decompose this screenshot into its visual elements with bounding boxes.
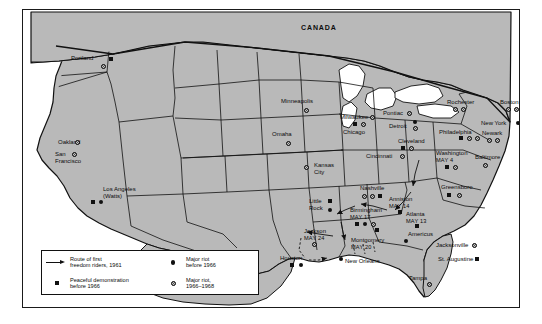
major-riot-1966-1968-marker	[400, 154, 405, 159]
city-label-baltimore: Baltimore	[475, 154, 500, 161]
major-riot-1966-1968-marker	[506, 107, 511, 112]
city-name: Minneapolis	[281, 98, 313, 105]
city-name: Tampa	[409, 275, 427, 282]
city-name: Montgomery	[351, 237, 384, 244]
major-riot-1966-1968-marker	[475, 136, 480, 141]
city-date: MAY 17	[350, 214, 382, 221]
legend-label-peaceful-demonstration: Peaceful demonstration before 1966	[70, 277, 129, 290]
major-riot-1966-1968-marker	[409, 146, 414, 151]
legend-item-freedom-riders: Route of first freedom riders, 1961	[44, 256, 152, 269]
city-name: Cincinnati	[366, 153, 392, 160]
city-name: Nashville	[360, 185, 384, 192]
city-label-detroit: Detroit	[389, 123, 407, 130]
city-label-san-francisco: San Francisco	[55, 151, 81, 164]
map-legend: Route of first freedom riders, 1961 Peac…	[41, 250, 259, 295]
legend-item-major-riot-1966-1968: Major riot, 1966–1968	[160, 277, 256, 290]
major-riot-1966-1968-marker	[457, 193, 462, 198]
map-figure-frame: CANADA MEXICO PortlandOaklandSan Francis…	[22, 9, 520, 308]
city-date: MAY 20	[351, 244, 384, 251]
city-label-houston: Houston	[280, 255, 302, 262]
city-label-kansas-city: Kansas City	[314, 162, 334, 175]
city-label-rochester: Rochester	[447, 99, 474, 106]
city-label-boston: Boston	[500, 99, 519, 106]
city-label-anniston: AnnistonMAY 14	[389, 196, 412, 209]
city-name: Kansas City	[314, 162, 334, 175]
legend-item-peaceful-demonstration: Peaceful demonstration before 1966	[44, 277, 156, 290]
city-name: Omaha	[272, 131, 292, 138]
square-icon	[44, 281, 70, 285]
major-riot-1966-1968-marker	[467, 136, 472, 141]
city-name: St. Augustine	[438, 256, 473, 263]
major-riot-1966-1968-marker	[427, 282, 432, 287]
city-label-jacksonville: Jacksonville	[436, 242, 468, 249]
peaceful-demonstration-marker	[459, 136, 463, 140]
city-label-milwaukee: Milwaukee	[340, 114, 368, 121]
major-riot-1966-1968-marker	[304, 165, 309, 170]
city-name: Greensboro	[441, 184, 473, 191]
city-label-birmingham: BirminghamMAY 17	[350, 207, 382, 220]
city-label-greensboro: Greensboro	[441, 184, 473, 191]
city-name: Jacksonville	[436, 242, 468, 249]
legend-label-freedom-riders: Route of first freedom riders, 1961	[70, 256, 122, 269]
legend-label-major-riot-before-1966: Major riot before 1966	[186, 256, 216, 269]
city-label-omaha: Omaha	[272, 131, 292, 138]
city-label-tampa: Tampa	[409, 275, 427, 282]
city-name: Detroit	[389, 123, 407, 130]
ring-icon	[160, 281, 186, 286]
city-label-pontiac: Pontiac	[383, 110, 403, 117]
major-riot-1966-1968-marker	[514, 107, 519, 112]
peaceful-demonstration-marker	[415, 224, 419, 228]
city-label-atlanta: AtlantaMAY 13	[406, 211, 427, 224]
major-riot-1966-1968-marker	[371, 222, 376, 227]
city-name: Cleveland	[398, 138, 425, 145]
major-riot-1966-1968-marker	[304, 108, 309, 113]
city-name: Houston	[280, 255, 302, 262]
major-riot-1966-1968-marker	[472, 243, 477, 248]
city-date: MAY 14	[389, 203, 412, 210]
major-riot-1966-1968-marker	[413, 126, 418, 131]
city-name: Americus	[408, 231, 433, 238]
city-name: Atlanta	[406, 211, 427, 218]
city-name: Washington	[436, 150, 467, 157]
legend-label-major-riot-1966-1968: Major riot, 1966–1968	[186, 277, 214, 290]
city-label-los-angeles: Los Angeles (Watts)	[103, 186, 136, 199]
major-riot-1966-1968-marker	[101, 64, 106, 69]
route-arrow-icon	[44, 259, 70, 265]
city-label-cleveland: Cleveland	[398, 138, 425, 145]
city-label-jackson: JacksonMAY 24	[304, 228, 326, 241]
city-date: MAY 4	[436, 157, 467, 164]
peaceful-demonstration-marker	[475, 257, 479, 261]
city-name: Little Rock	[309, 198, 323, 211]
city-name: Anniston	[389, 196, 412, 203]
legend-item-major-riot-before-1966: Major riot before 1966	[160, 256, 256, 269]
peaceful-demonstration-marker	[355, 222, 359, 226]
city-label-new-orleans: New Orleans	[345, 258, 380, 265]
city-label-st-augustine: St. Augustine	[438, 256, 473, 263]
city-name: New Orleans	[345, 258, 380, 265]
city-name: Jackson	[304, 228, 326, 235]
city-name: Portland	[71, 55, 93, 62]
peaceful-demonstration-marker	[401, 146, 405, 150]
major-riot-1966-1968-marker	[286, 141, 291, 146]
city-name: Birmingham	[350, 207, 382, 214]
dot-icon	[160, 260, 186, 264]
city-name: Baltimore	[475, 154, 500, 161]
peaceful-demonstration-marker	[353, 122, 357, 126]
major-riot-1966-1968-marker	[483, 163, 488, 168]
major-riot-1966-1968-marker	[370, 194, 375, 199]
city-label-minneapolis: Minneapolis	[281, 98, 313, 105]
screenshot-root: CANADA MEXICO PortlandOaklandSan Francis…	[0, 0, 542, 324]
major-riot-1966-1968-marker	[75, 140, 80, 145]
city-name: Los Angeles (Watts)	[103, 186, 136, 199]
peaceful-demonstration-marker	[328, 199, 332, 203]
city-date: MAY 24	[304, 235, 326, 242]
major-riot-1966-1968-marker	[495, 138, 500, 143]
city-label-new-york: New York	[481, 120, 506, 127]
major-riot-1966-1968-marker	[461, 107, 466, 112]
city-label-philadelphia: Philadelphia	[439, 129, 472, 136]
city-name: Rochester	[447, 99, 474, 106]
major-riot-1966-1968-marker	[370, 115, 375, 120]
city-label-cincinnati: Cincinnati	[366, 153, 392, 160]
major-riot-1966-1968-marker	[453, 107, 458, 112]
city-name: San Francisco	[55, 151, 81, 164]
